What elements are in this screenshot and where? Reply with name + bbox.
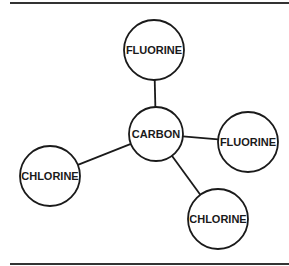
atom-label: FLUORINE [220,136,276,148]
atom-label: CHLORINE [189,213,246,225]
atom-label: CARBON [132,128,180,140]
atom-label: FLUORINE [126,44,182,56]
atom-nodes: FLUORINECARBONFLUORINECHLORINECHLORINE [20,20,278,249]
bond-carbon-fluorine_top [155,80,156,107]
bond-carbon-fluorine_right [183,136,218,139]
bond-carbon-chlorine_left [78,144,131,165]
bond-carbon-chlorine_bottom [172,156,200,195]
atom-node-fluorine-right: FLUORINE [218,112,278,172]
molecule-diagram: FLUORINECARBONFLUORINECHLORINECHLORINE [0,0,289,266]
atom-node-carbon: CARBON [129,107,183,161]
diagram-canvas: FLUORINECARBONFLUORINECHLORINECHLORINE [0,0,289,266]
atom-node-fluorine-top: FLUORINE [124,20,184,80]
atom-label: CHLORINE [21,170,78,182]
atom-node-chlorine-bottom: CHLORINE [188,189,248,249]
atom-node-chlorine-left: CHLORINE [20,146,80,206]
